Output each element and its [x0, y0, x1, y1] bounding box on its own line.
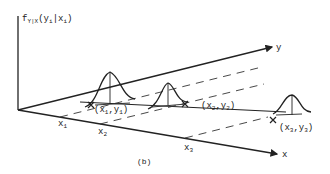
conditional-density-diagram: fY|X(yi|xi) y x x1 x2 x3 (x1,y1) (x2,y2)…	[0, 0, 330, 174]
ylabel-mid: |x	[53, 14, 64, 24]
figure-caption: (b)	[137, 158, 151, 166]
ylabel-sub: Y|X	[27, 18, 38, 25]
y-axis-label: y	[276, 44, 281, 53]
point-marker-3	[270, 117, 276, 123]
point-label-2: (x2,y2)	[201, 102, 235, 112]
x-tick-3: x3	[184, 144, 193, 154]
point-label-3: (x3,y3)	[279, 124, 313, 134]
dashed-line-x3	[185, 117, 268, 138]
x-axis	[18, 110, 277, 154]
ylabel-close: )	[67, 14, 72, 24]
x-tick-2: x2	[98, 128, 107, 138]
x-tick-1: x1	[58, 120, 67, 130]
ylabel-args: (y	[38, 14, 49, 24]
x-axis-label: x	[282, 151, 287, 160]
diagram-graphics	[0, 0, 330, 174]
point-label-1: (x1,y1)	[94, 106, 128, 116]
density-axis-label: fY|X(yi|xi)	[22, 15, 72, 25]
